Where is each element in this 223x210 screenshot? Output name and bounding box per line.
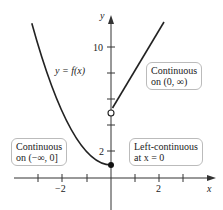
annotation-continuous-left: Continuous on (−∞, 0] <box>11 138 67 166</box>
annotation-line: Left-continuous <box>134 141 198 152</box>
y-tick-label-10: 10 <box>93 42 103 53</box>
closed-point <box>108 162 114 168</box>
y-axis-label: y <box>100 10 104 21</box>
annotation-line: on (0, ∞) <box>151 76 197 87</box>
x-tick-label-neg2: −2 <box>55 183 66 194</box>
x-axis-label: x <box>207 183 211 194</box>
y-axis-arrow-icon <box>108 15 114 24</box>
x-tick-label-2: 2 <box>156 183 161 194</box>
annotation-line: at x = 0 <box>134 152 198 163</box>
open-point <box>108 110 114 116</box>
annotation-line: on (−∞, 0] <box>16 152 62 163</box>
y-tick-label-2: 2 <box>99 146 104 157</box>
annotation-continuous-right: Continuous on (0, ∞) <box>146 62 202 90</box>
curve-label: y = f(x) <box>55 65 85 76</box>
annotation-line: Continuous <box>16 141 62 152</box>
x-axis-arrow-icon <box>207 175 216 181</box>
annotation-line: Continuous <box>151 65 197 76</box>
annotation-left-continuous: Left-continuous at x = 0 <box>129 138 203 166</box>
chart-plot <box>0 0 223 210</box>
